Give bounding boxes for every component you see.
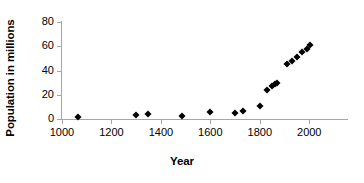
data-point — [178, 113, 185, 120]
x-tick-label: 1000 — [38, 126, 86, 138]
y-tick-label: 0 — [14, 113, 54, 124]
y-tick-label: 60 — [14, 40, 54, 51]
x-tick-label: 2000 — [285, 126, 333, 138]
x-tick-label: 1600 — [186, 126, 234, 138]
data-point — [145, 110, 152, 117]
x-axis-line — [61, 119, 348, 120]
x-tick-label: 1400 — [137, 126, 185, 138]
y-tick-mark — [57, 119, 61, 120]
y-tick-label: 80 — [14, 16, 54, 27]
x-tick-mark — [111, 120, 112, 124]
x-tick-mark — [161, 120, 162, 124]
y-tick-mark — [57, 22, 61, 23]
x-tick-label: 1800 — [236, 126, 284, 138]
x-tick-mark — [210, 120, 211, 124]
y-tick-label: 20 — [14, 89, 54, 100]
y-tick-mark — [57, 71, 61, 72]
x-axis-title: Year — [0, 155, 364, 167]
x-tick-mark — [309, 120, 310, 124]
plot-area — [62, 22, 334, 119]
data-point — [207, 108, 214, 115]
x-tick-mark — [62, 120, 63, 124]
data-point — [239, 107, 246, 114]
y-tick-label: 40 — [14, 65, 54, 76]
data-point — [257, 102, 264, 109]
x-tick-mark — [260, 120, 261, 124]
data-point — [133, 112, 140, 119]
population-scatter-chart: Population in millions 020406080 1000120… — [0, 0, 364, 183]
data-point — [232, 109, 239, 116]
y-tick-mark — [57, 95, 61, 96]
y-tick-mark — [57, 46, 61, 47]
x-tick-label: 1200 — [87, 126, 135, 138]
